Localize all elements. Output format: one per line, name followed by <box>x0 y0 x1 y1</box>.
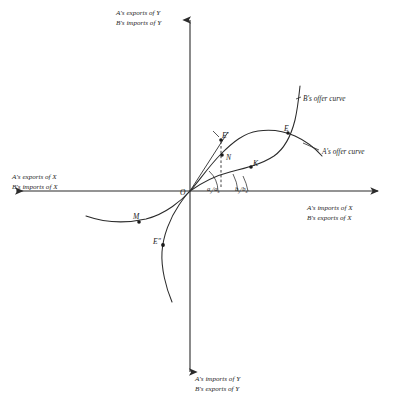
b-offer-curve-label: B's offer curve <box>303 94 346 103</box>
point-m-label: M <box>132 212 140 221</box>
right-axis-label-line1: A's imports of X <box>306 204 353 212</box>
point-e-prime-label: E' <box>221 131 229 140</box>
point-n-label: N <box>225 153 232 162</box>
a-offer-curve-group <box>86 130 322 221</box>
point-k-label: K <box>252 159 259 168</box>
left-axis-label-line2: B's imports of X <box>12 183 58 191</box>
ratio-labels: ay/ax by/bx <box>207 185 248 194</box>
diagram-canvas: A's exports of Y B's imports of Y A's im… <box>0 0 394 400</box>
top-axis-label-line1: A's exports of Y <box>115 9 161 17</box>
right-axis-label-line2: B's exports of X <box>307 214 352 222</box>
point-e-label: E <box>283 124 289 133</box>
point-labels: E E' N K M E″ O <box>132 124 289 246</box>
e-prime-tick <box>213 131 219 137</box>
tick-marks <box>213 97 319 150</box>
axes-group <box>16 20 378 372</box>
point-e-dprime-dot <box>161 243 165 247</box>
offer-curve-diagram: A's exports of Y B's imports of Y A's im… <box>0 0 394 400</box>
origin-label: O <box>180 188 186 197</box>
ratio-b-denominator-sub: x <box>244 189 247 194</box>
ratio-a-denominator-sub: x <box>216 189 219 194</box>
a-offer-curve <box>86 130 322 221</box>
bottom-axis-label-line2: B's exports of Y <box>195 385 240 393</box>
point-e-dprime-label: E″ <box>152 237 162 246</box>
bottom-axis-label-line1: A's imports of Y <box>194 375 241 383</box>
point-n-dot <box>220 153 224 157</box>
ratio-b-label: by/bx <box>235 185 248 194</box>
a-offer-curve-label: A's offer curve <box>321 147 365 156</box>
left-axis-label-line1: A's exports of X <box>11 173 57 181</box>
a-curve-leader <box>303 143 319 150</box>
top-axis-label-line2: B's imports of Y <box>116 19 162 27</box>
